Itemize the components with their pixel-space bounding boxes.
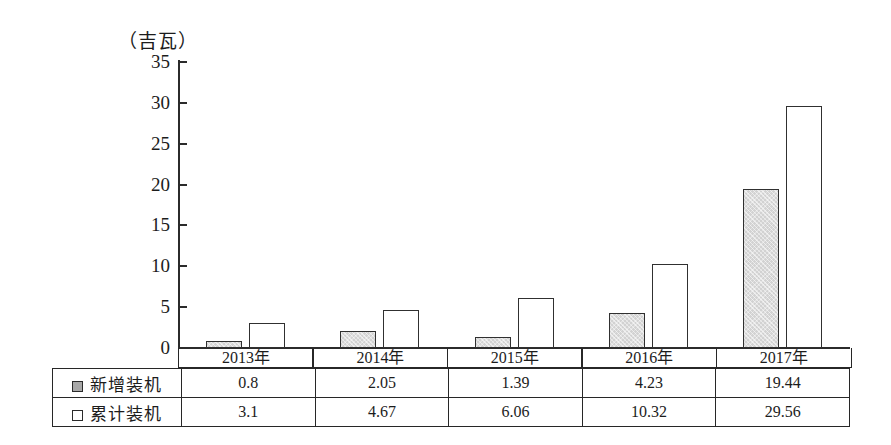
y-axis-tick <box>178 184 187 186</box>
y-axis-tick-labels: 05101520253035 <box>118 62 170 348</box>
y-axis-unit-label: （吉瓦） <box>118 26 198 53</box>
bar-2016年-累计装机 <box>652 264 688 348</box>
table-cell-value: 0.8 <box>182 369 316 398</box>
bar-2015年-累计装机 <box>518 298 554 348</box>
y-axis-tick-label: 5 <box>124 297 170 316</box>
y-axis-tick-label: 10 <box>124 256 170 275</box>
bar-2014年-新增装机 <box>340 331 376 348</box>
y-axis-tick-label: 0 <box>124 338 170 357</box>
year-header-row: 2013年2014年2015年2016年2017年 <box>178 348 850 368</box>
bar-2014年-累计装机 <box>383 310 419 348</box>
y-axis-tick <box>178 306 187 308</box>
table-cell-value: 3.1 <box>182 398 316 427</box>
y-axis-tick <box>178 143 187 145</box>
table-row: 累计装机3.14.676.0610.3229.56 <box>53 398 850 427</box>
y-axis-tick <box>178 61 187 63</box>
y-axis-tick <box>178 265 187 267</box>
y-axis-tick-label: 35 <box>124 52 170 71</box>
table-cell-value: 10.32 <box>582 398 716 427</box>
y-axis-tick <box>178 102 187 104</box>
table-cell-value: 19.44 <box>716 369 850 398</box>
legend-label: 累计装机 <box>90 405 162 424</box>
legend-cell-累计装机: 累计装机 <box>53 398 182 427</box>
data-table: 新增装机0.82.051.394.2319.44累计装机3.14.676.061… <box>52 368 850 427</box>
y-axis-tick-label: 25 <box>124 134 170 153</box>
legend-label: 新增装机 <box>90 376 162 395</box>
y-axis-tick-label: 20 <box>124 175 170 194</box>
year-header-cell: 2016年 <box>581 348 717 368</box>
table-cell-value: 2.05 <box>315 369 449 398</box>
table-cell-value: 6.06 <box>449 398 583 427</box>
year-header-cell: 2015年 <box>447 348 583 368</box>
plot-area <box>178 62 850 348</box>
table-cell-value: 4.67 <box>315 398 449 427</box>
bar-2016年-新增装机 <box>609 313 645 348</box>
hollow-square-icon <box>72 410 83 421</box>
table-row: 新增装机0.82.051.394.2319.44 <box>53 369 850 398</box>
bar-2015年-新增装机 <box>475 337 511 348</box>
y-axis-tick <box>178 224 187 226</box>
bar-2017年-新增装机 <box>743 189 779 348</box>
table-cell-value: 1.39 <box>449 369 583 398</box>
year-header-cell: 2014年 <box>312 348 448 368</box>
y-axis-tick-label: 15 <box>124 215 170 234</box>
bar-2017年-累计装机 <box>786 106 822 348</box>
year-header-cell: 2013年 <box>178 348 314 368</box>
legend-cell-新增装机: 新增装机 <box>53 369 182 398</box>
table-cell-value: 29.56 <box>716 398 850 427</box>
y-axis-tick-label: 30 <box>124 93 170 112</box>
filled-square-icon <box>72 381 83 392</box>
bar-2013年-累计装机 <box>249 323 285 348</box>
chart-figure: （吉瓦） 05101520253035 2013年2014年2015年2016年… <box>0 0 891 445</box>
year-header-cell: 2017年 <box>716 348 852 368</box>
table-cell-value: 4.23 <box>582 369 716 398</box>
